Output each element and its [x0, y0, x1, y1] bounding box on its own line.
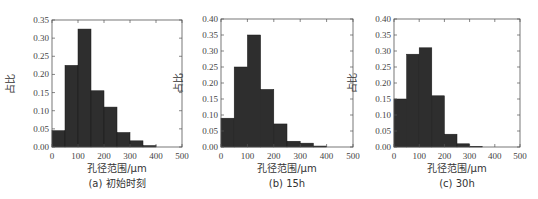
- histogram-bar: [444, 134, 457, 147]
- x-tick-label: 400: [149, 151, 163, 161]
- histogram-bar: [457, 144, 470, 147]
- x-axis-label: 孔径范围/μm: [427, 162, 486, 174]
- histogram-bar: [52, 131, 65, 147]
- histogram-bar: [104, 107, 117, 147]
- histogram-bar: [247, 35, 260, 147]
- y-tick-label: 0.40: [375, 14, 391, 24]
- x-tick-label: 100: [71, 151, 85, 161]
- histogram-bar: [261, 89, 274, 147]
- histogram-bar: [91, 91, 104, 147]
- y-tick-label: 0.25: [202, 62, 218, 72]
- y-tick-label: 0.10: [375, 110, 391, 120]
- y-tick-label: 0.35: [375, 30, 391, 40]
- x-axis-label: 孔径范围/μm: [87, 162, 146, 174]
- x-tick-label: 200: [97, 151, 111, 161]
- histogram-bar: [65, 65, 78, 147]
- y-tick-label: 0.35: [33, 15, 49, 25]
- x-tick-label: 300: [463, 151, 477, 161]
- histogram-bar: [274, 124, 287, 147]
- histogram-bar: [221, 118, 234, 147]
- y-tick-label: 0.05: [202, 126, 218, 136]
- y-tick-label: 0.40: [202, 14, 218, 24]
- histogram-bar: [419, 48, 432, 147]
- x-tick-label: 100: [412, 151, 426, 161]
- y-tick-label: 0.10: [33, 106, 49, 116]
- x-tick-label: 0: [50, 151, 55, 161]
- y-tick-label: 0.00: [375, 142, 391, 152]
- y-tick-label: 0.00: [202, 142, 218, 152]
- histogram-bar: [117, 132, 130, 147]
- histogram-bar: [407, 54, 420, 147]
- histogram-bar: [130, 141, 143, 147]
- y-tick-label: 0.30: [33, 33, 49, 43]
- histogram-bar: [287, 141, 300, 147]
- y-tick-label: 0.15: [202, 94, 218, 104]
- y-tick-label: 0.25: [33, 51, 49, 61]
- y-tick-label: 0.30: [202, 46, 218, 56]
- y-tick-label: 0.05: [33, 124, 49, 134]
- y-tick-label: 0.20: [375, 78, 391, 88]
- y-tick-label: 0.00: [33, 142, 49, 152]
- x-tick-label: 200: [267, 151, 281, 161]
- y-tick-label: 0.15: [33, 88, 49, 98]
- histogram-bar: [300, 143, 313, 147]
- y-tick-label: 0.20: [202, 78, 218, 88]
- y-axis-label: 占比: [4, 74, 16, 94]
- histogram-figure: 0.000.050.100.150.200.250.300.3501002003…: [0, 0, 538, 199]
- x-axis-label: 孔径范围/μm: [257, 162, 316, 174]
- histogram-bar: [234, 67, 247, 147]
- x-tick-label: 500: [175, 151, 189, 161]
- x-tick-label: 400: [488, 151, 502, 161]
- x-tick-label: 400: [320, 151, 334, 161]
- y-axis-label: 占比: [346, 73, 358, 93]
- y-tick-label: 0.20: [33, 69, 49, 79]
- x-tick-label: 500: [513, 151, 527, 161]
- y-tick-label: 0.25: [375, 62, 391, 72]
- x-tick-label: 500: [346, 151, 360, 161]
- x-tick-label: 0: [219, 151, 224, 161]
- chart-caption: (c) 30h: [439, 178, 475, 189]
- y-tick-label: 0.30: [375, 46, 391, 56]
- chart-caption: (b) 15h: [269, 178, 305, 189]
- x-tick-label: 0: [392, 151, 397, 161]
- y-tick-label: 0.15: [375, 94, 391, 104]
- x-tick-label: 300: [123, 151, 137, 161]
- y-axis-label: 占比: [172, 73, 184, 93]
- histogram-bar: [432, 96, 445, 147]
- histogram-bar: [394, 99, 407, 147]
- x-tick-label: 300: [293, 151, 307, 161]
- y-tick-label: 0.10: [202, 110, 218, 120]
- histogram-bar: [78, 29, 91, 147]
- y-tick-label: 0.35: [202, 30, 218, 40]
- x-tick-label: 200: [438, 151, 452, 161]
- x-tick-label: 100: [241, 151, 255, 161]
- chart-caption: (a) 初始时刻: [88, 177, 145, 189]
- y-tick-label: 0.05: [375, 126, 391, 136]
